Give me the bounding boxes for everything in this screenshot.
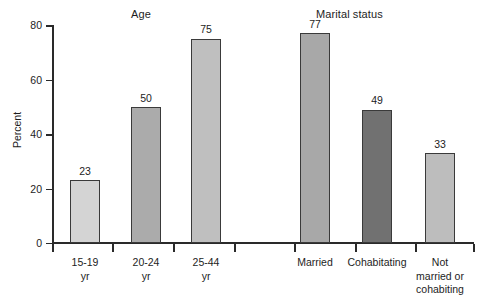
- x-category-label-20-24-yr: 20-24 yr: [116, 256, 176, 283]
- x-tick-mark-3: [234, 244, 236, 252]
- x-tick-mark-4: [294, 244, 296, 252]
- x-tick-mark-5: [355, 244, 357, 252]
- x-tick-mark-2: [173, 244, 175, 252]
- x-tick-mark-0: [52, 244, 54, 252]
- y-tick-mark-80: [46, 25, 53, 27]
- x-category-label-15-19-yr: 15-19 yr: [55, 256, 115, 283]
- bar-25-44-yr[interactable]: [191, 39, 221, 243]
- panel-title-age: Age: [131, 8, 151, 20]
- y-tick-label-0: 0: [8, 237, 42, 249]
- bar-15-19-yr[interactable]: [70, 180, 100, 243]
- bar-chart: Age Marital status Percent 80 60 40 20 0…: [0, 0, 478, 303]
- bar-value-not-married-or-cohabiting: 33: [425, 138, 455, 150]
- bar-not-married-or-cohabiting[interactable]: [425, 153, 455, 243]
- y-tick-label-80: 80: [8, 19, 42, 31]
- y-tick-mark-20: [46, 189, 53, 191]
- bar-value-married: 77: [300, 18, 330, 30]
- x-tick-mark-1: [112, 244, 114, 252]
- y-tick-mark-40: [46, 134, 53, 136]
- bar-cohabitating[interactable]: [362, 110, 392, 244]
- y-tick-mark-60: [46, 80, 53, 82]
- bar-married[interactable]: [300, 33, 330, 243]
- y-tick-label-60: 60: [8, 74, 42, 86]
- bar-value-20-24-yr: 50: [131, 92, 161, 104]
- x-tick-mark-6: [415, 244, 417, 252]
- bar-value-15-19-yr: 23: [70, 165, 100, 177]
- bar-value-25-44-yr: 75: [191, 23, 221, 35]
- y-tick-label-20: 20: [8, 183, 42, 195]
- x-category-label-not-married-or-cohabiting: Not married or cohabiting: [408, 256, 472, 297]
- bar-20-24-yr[interactable]: [131, 107, 161, 243]
- y-tick-label-40: 40: [8, 128, 42, 140]
- x-category-label-cohabitating: Cohabitating: [347, 256, 407, 270]
- x-category-label-25-44-yr: 25-44 yr: [176, 256, 236, 283]
- x-tick-mark-7: [473, 244, 475, 252]
- x-category-label-married: Married: [285, 256, 345, 270]
- bar-value-cohabitating: 49: [362, 94, 392, 106]
- x-axis-line: [52, 242, 474, 244]
